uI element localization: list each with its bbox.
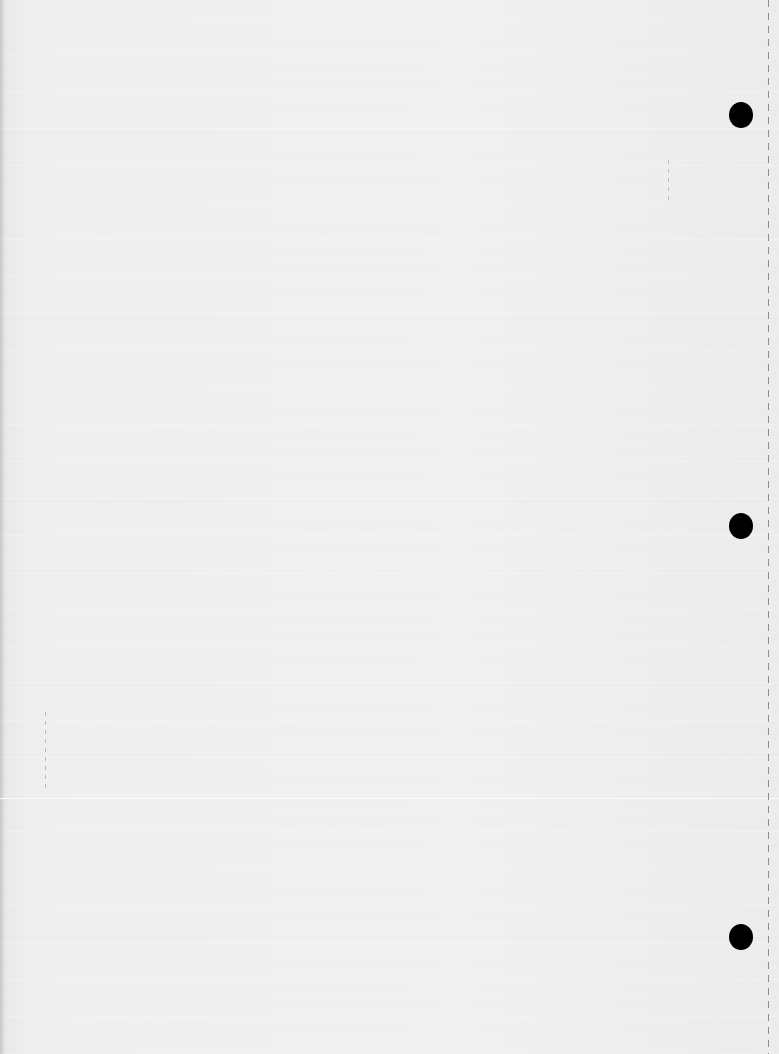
punch-hole bbox=[729, 924, 753, 950]
left-edge-shadow bbox=[0, 0, 5, 1054]
punch-hole bbox=[729, 102, 753, 128]
faint-scan-mark bbox=[45, 712, 46, 792]
scanner-artifact-line bbox=[0, 798, 779, 799]
paper-texture bbox=[0, 0, 779, 1054]
perforation-line bbox=[768, 0, 769, 1054]
punch-hole bbox=[729, 513, 753, 539]
scanned-page bbox=[0, 0, 779, 1054]
faint-scan-mark bbox=[668, 160, 669, 200]
